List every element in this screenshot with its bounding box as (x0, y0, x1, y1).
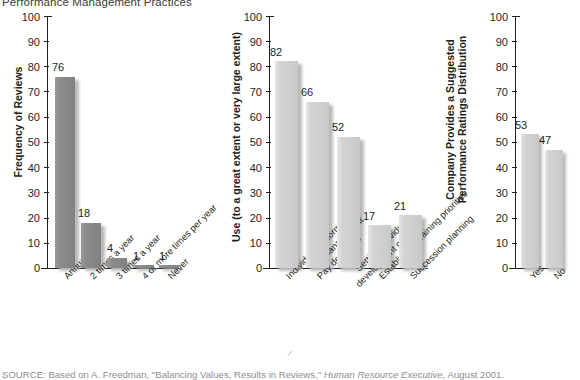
y-tick-label: 30 (482, 188, 508, 199)
bar-value-yes: 53 (508, 119, 534, 131)
bar-no[interactable] (545, 150, 563, 268)
bar-value-individual-performance-management: 82 (263, 46, 289, 58)
faded-label-artifact: ∽ (283, 339, 304, 360)
y-tick-label: 10 (14, 238, 40, 249)
y-tick-label: 100 (14, 12, 40, 23)
y-tick-label: 90 (14, 37, 40, 48)
chart-panel-use-extent: Use (to a great extent or very large ext… (222, 0, 437, 340)
y-tick-label: 70 (14, 87, 40, 98)
y-tick-label: 70 (236, 87, 262, 98)
y-tick-label: 0 (236, 263, 262, 274)
source-article: "Balancing Values, Results in Reviews," (152, 369, 321, 380)
y-tick-label: 30 (14, 188, 40, 199)
bar-value-4-or-more-times-per-year: 1 (123, 250, 149, 262)
source-prefix: SOURCE: Based on A. Freedman, (2, 369, 152, 380)
axis-tick (509, 268, 517, 269)
axis-tick (41, 268, 49, 269)
y-tick-label: 50 (482, 137, 508, 148)
y-tick-label: 50 (14, 137, 40, 148)
y-tick-label: 40 (14, 163, 40, 174)
bars-container (269, 16, 428, 268)
y-tick-label: 90 (236, 37, 262, 48)
y-tick-label: 0 (482, 263, 508, 274)
y-tick-label: 40 (482, 163, 508, 174)
bar-value-pay-decisions: 66 (294, 86, 320, 98)
y-tick-label: 20 (482, 213, 508, 224)
source-note: SOURCE: Based on A. Freedman, "Balancing… (2, 369, 504, 380)
y-tick-label: 80 (236, 62, 262, 73)
bar-value-no: 47 (532, 134, 558, 146)
bar-succession-planning[interactable] (399, 215, 422, 268)
source-publication: Human Resource Executive, (321, 369, 445, 380)
axis-tick (263, 268, 271, 269)
bar-value-annual: 76 (45, 61, 71, 73)
bar-never[interactable] (159, 265, 179, 268)
y-tick-label: 10 (482, 238, 508, 249)
bar-establishing-training-priorities[interactable] (368, 225, 391, 268)
y-tick-label: 60 (14, 112, 40, 123)
y-tick-label: 10 (236, 238, 262, 249)
chart-panel-ratings-distribution: Company Provides a Suggested Performance… (440, 0, 580, 340)
y-tick-label: 60 (482, 112, 508, 123)
y-tick-label: 50 (236, 137, 262, 148)
bar-value-establishing-training-priorities: 17 (356, 210, 382, 222)
y-tick-label: 80 (482, 62, 508, 73)
y-tick-label: 80 (14, 62, 40, 73)
bar-4-or-more-times-per-year[interactable] (133, 265, 153, 268)
source-date: August 2001. (445, 369, 504, 380)
y-tick-label: 30 (236, 188, 262, 199)
y-tick-label: 20 (236, 213, 262, 224)
y-tick-label: 100 (482, 12, 508, 23)
y-tick-label: 90 (482, 37, 508, 48)
bar-value-2-times-a-year: 18 (71, 207, 97, 219)
bar-value-succession-planning: 21 (387, 200, 413, 212)
y-tick-label: 60 (236, 112, 262, 123)
bar-value-setting-individual-development-needs: 52 (325, 121, 351, 133)
y-axis-title-line: Company Provides a Suggested (444, 7, 456, 232)
y-axis-title-ratings-distribution: Company Provides a Suggested Performance… (444, 7, 469, 232)
bar-setting-individual-development-needs[interactable] (337, 137, 360, 268)
y-tick-label: 70 (482, 87, 508, 98)
y-tick-label: 20 (14, 213, 40, 224)
bar-annual[interactable] (55, 77, 75, 269)
y-axis-title-line: Performance Ratings Distribution (456, 7, 468, 232)
chart-panel-frequency-of-reviews: Frequency of Reviews 100 90 80 70 60 50 … (0, 0, 200, 340)
y-tick-label: 40 (236, 163, 262, 174)
bar-value-never: 1 (149, 250, 175, 262)
bars-container (47, 16, 179, 268)
y-tick-label: 0 (14, 263, 40, 274)
bar-yes[interactable] (521, 134, 539, 268)
y-tick-label: 100 (236, 12, 262, 23)
bar-value-3-times-a-year: 4 (97, 242, 123, 254)
